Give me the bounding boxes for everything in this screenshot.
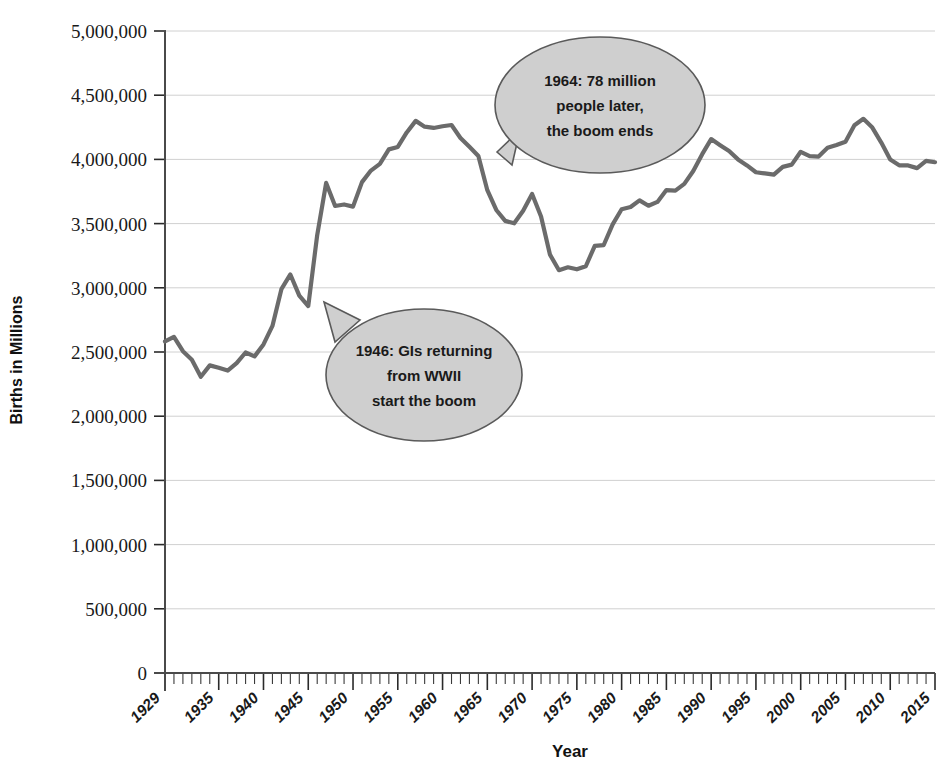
y-tick-label: 3,000,000 bbox=[71, 278, 147, 299]
y-tick-label: 0 bbox=[138, 663, 148, 684]
y-tick-label: 3,500,000 bbox=[71, 214, 147, 235]
callout-line: from WWII bbox=[387, 367, 461, 384]
y-tick-label: 2,000,000 bbox=[71, 406, 147, 427]
y-tick-label: 4,500,000 bbox=[71, 85, 147, 106]
y-tick-label: 5,000,000 bbox=[71, 21, 147, 42]
callout-line: start the boom bbox=[372, 392, 476, 409]
y-tick-label: 1,500,000 bbox=[71, 470, 147, 491]
callout-line: people later, bbox=[556, 97, 644, 114]
chart-canvas: 0500,0001,000,0001,500,0002,000,0002,500… bbox=[0, 0, 951, 780]
y-tick-label: 500,000 bbox=[85, 599, 147, 620]
callout-line: 1964: 78 million bbox=[544, 72, 656, 89]
y-tick-label: 4,000,000 bbox=[71, 149, 147, 170]
callout-line: 1946: GIs returning bbox=[356, 342, 493, 359]
callout-boom-end: 1964: 78 millionpeople later,the boom en… bbox=[495, 37, 705, 173]
y-tick-label: 1,000,000 bbox=[71, 535, 147, 556]
callout-line: the boom ends bbox=[547, 122, 654, 139]
y-axis-title: Births in Millions bbox=[8, 295, 25, 424]
chart-figure: 0500,0001,000,0001,500,0002,000,0002,500… bbox=[0, 0, 951, 780]
y-tick-label: 2,500,000 bbox=[71, 342, 147, 363]
x-axis-title: Year bbox=[552, 742, 588, 761]
